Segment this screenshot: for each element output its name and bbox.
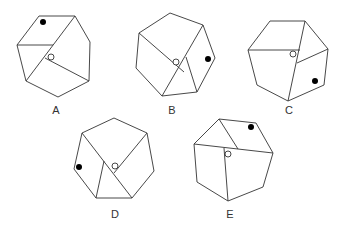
inner-line xyxy=(162,25,203,96)
inner-line xyxy=(186,57,197,92)
shape-b: B xyxy=(136,13,215,116)
inner-line xyxy=(219,119,238,149)
shape-d: D xyxy=(74,118,154,220)
white-dot xyxy=(290,51,296,57)
figure-canvas: A B C D E xyxy=(0,0,344,231)
shape-c: C xyxy=(248,21,328,116)
inner-line xyxy=(96,161,104,198)
inner-line xyxy=(194,144,273,153)
option-label: D xyxy=(111,208,119,220)
black-dot xyxy=(205,56,211,62)
option-label: E xyxy=(226,208,233,220)
white-dot xyxy=(48,54,54,60)
heptagon-outline xyxy=(74,118,154,198)
black-dot xyxy=(76,164,82,170)
option-label: C xyxy=(285,104,293,116)
black-dot xyxy=(312,78,318,84)
option-label: B xyxy=(168,104,175,116)
heptagon-outline xyxy=(248,21,328,101)
black-dot xyxy=(40,19,46,25)
inner-line xyxy=(82,133,132,198)
heptagon-outline xyxy=(194,119,273,201)
option-label: A xyxy=(52,104,60,116)
shape-a: A xyxy=(17,16,90,116)
black-dot xyxy=(248,124,254,130)
white-dot xyxy=(173,59,179,65)
inner-line xyxy=(26,16,75,81)
shape-e: E xyxy=(194,119,273,220)
inner-line xyxy=(139,33,184,72)
inner-line xyxy=(297,49,328,63)
inner-line xyxy=(114,133,147,173)
white-dot xyxy=(112,163,118,169)
white-dot xyxy=(225,151,231,157)
inner-line xyxy=(45,58,89,81)
